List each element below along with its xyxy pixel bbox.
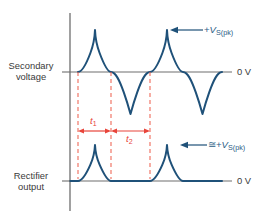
rectifier-output-label-line2: output (2, 181, 60, 192)
t1-subscript: 1 (93, 120, 97, 127)
rectifier-output-waveform (70, 145, 222, 181)
rectifier-output-label: Rectifier output (2, 170, 60, 192)
peak-secondary-voltage-label: +VS(pk) (204, 24, 233, 37)
zero-volts-bottom-label: 0 V (237, 175, 251, 186)
top-peak-callout-arrow (170, 27, 178, 33)
peak-rectifier-output-label: ≅+VS(pk) (208, 139, 245, 152)
secondary-voltage-label-line1: Secondary (2, 60, 60, 71)
peak-top-subscript: S(pk) (216, 28, 233, 37)
secondary-voltage-label-line2: voltage (2, 71, 60, 82)
peak-bottom-subscript: S(pk) (228, 143, 245, 152)
bottom-peak-callout-arrow (180, 142, 188, 148)
t1-arrow-head-right (105, 129, 111, 134)
secondary-voltage-label: Secondary voltage (2, 60, 60, 82)
rectifier-output-label-line1: Rectifier (2, 170, 60, 181)
t2-arrow-head-right (144, 129, 150, 134)
peak-bottom-prefix: ≅+ (208, 139, 222, 150)
zero-volts-top-label: 0 V (237, 66, 251, 77)
t2-label: t2 (126, 133, 133, 145)
t2-arrow-head-left (111, 129, 117, 134)
t2-subscript: 2 (129, 138, 133, 145)
t1-label: t1 (90, 115, 97, 127)
waveform-figure: Secondary voltage Rectifier output 0 V 0… (0, 0, 267, 223)
t1-arrow-head-left (78, 129, 84, 134)
